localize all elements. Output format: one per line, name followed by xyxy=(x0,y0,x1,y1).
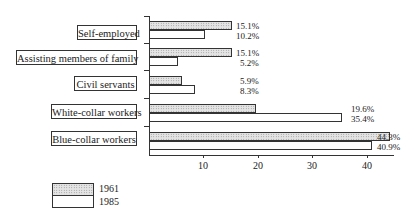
x-tick xyxy=(367,155,368,158)
x-tick-label: 40 xyxy=(357,160,377,171)
bar-1961 xyxy=(149,132,390,141)
bar-1961 xyxy=(149,76,182,85)
legend-label: 1961 xyxy=(99,183,119,194)
category-label: Blue-collar workers xyxy=(51,131,137,146)
y-tick xyxy=(144,43,149,44)
y-tick xyxy=(144,70,149,71)
x-tick-label: 30 xyxy=(302,160,322,171)
bar-1985 xyxy=(149,57,178,66)
category-label: Self-employed xyxy=(77,25,137,40)
bar-1985 xyxy=(149,85,195,94)
y-tick xyxy=(144,98,149,99)
value-label: 19.6% xyxy=(351,104,374,114)
value-label: 15.1% xyxy=(236,48,259,58)
value-label: 10.2% xyxy=(236,31,259,41)
x-tick xyxy=(258,155,259,158)
x-tick-label: 20 xyxy=(248,160,268,171)
value-label: 15.1% xyxy=(236,21,259,31)
y-tick xyxy=(144,126,149,127)
x-tick-label: 10 xyxy=(193,160,213,171)
value-label: 8.3% xyxy=(240,86,259,96)
value-label: 5.2% xyxy=(240,58,259,68)
category-label: White-collar workers xyxy=(51,104,137,119)
value-label: 44.3% xyxy=(377,132,400,142)
bar-1961 xyxy=(149,21,232,30)
x-axis xyxy=(149,155,394,156)
y-tick xyxy=(144,16,149,17)
bar-1985 xyxy=(149,113,342,122)
legend-swatch-1985 xyxy=(52,195,94,208)
bar-1961 xyxy=(149,104,256,113)
legend-label: 1985 xyxy=(99,196,119,207)
category-label: Civil servants xyxy=(74,76,137,91)
bar-1985 xyxy=(149,30,205,39)
bar-1985 xyxy=(149,141,372,150)
x-tick xyxy=(312,155,313,158)
value-label: 40.9% xyxy=(377,142,400,152)
x-tick xyxy=(203,155,204,158)
value-label: 5.9% xyxy=(240,76,259,86)
bar-1961 xyxy=(149,48,232,57)
category-label: Assisting members of family xyxy=(16,50,137,65)
value-label: 35.4% xyxy=(351,114,374,124)
